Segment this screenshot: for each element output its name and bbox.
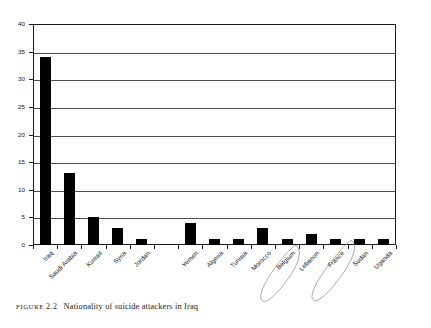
y-axis: 40 35 30 25 20 15 10 5 0 bbox=[0, 0, 33, 280]
x-tick-label: Jordan bbox=[133, 250, 152, 269]
bar bbox=[64, 173, 75, 245]
bar bbox=[88, 217, 99, 245]
y-tick-label: 30 bbox=[18, 76, 25, 82]
x-tick-label: Yemen bbox=[181, 250, 200, 269]
bars-layer bbox=[33, 24, 396, 245]
x-tick-label: Lebanon bbox=[298, 250, 320, 272]
x-tick-label: Tunisia bbox=[229, 250, 248, 269]
x-tick-label: Syria bbox=[112, 250, 127, 265]
y-tick-label: 5 bbox=[21, 214, 25, 220]
y-tick-label: 25 bbox=[18, 104, 25, 110]
x-tick-label: Iraq bbox=[42, 250, 54, 262]
y-tick-label: 40 bbox=[18, 21, 25, 27]
x-axis-labels: IraqSaudi ArabiaKuwaitSyriaJordanYemenAl… bbox=[0, 246, 431, 304]
x-tick-label: Kuwait bbox=[85, 250, 103, 268]
caption-text: Nationality of suicide attackers in Iraq bbox=[64, 302, 199, 311]
bar bbox=[185, 223, 196, 245]
bar bbox=[257, 228, 268, 245]
caption-figure-word: FIGURE bbox=[16, 303, 44, 310]
figure-caption: FIGURE 2.2 Nationality of suicide attack… bbox=[16, 302, 198, 311]
caption-figure-number: 2.2 bbox=[46, 302, 57, 311]
x-tick-label: Algeria bbox=[205, 250, 224, 269]
y-tick-label: 20 bbox=[18, 131, 25, 137]
x-tick-label: Uganda bbox=[373, 250, 394, 271]
y-tick-label: 15 bbox=[18, 159, 25, 165]
figure-container: 40 35 30 25 20 15 10 5 0 IraqSaudi Arabi… bbox=[0, 0, 431, 328]
bar bbox=[112, 228, 123, 245]
y-tick-label: 35 bbox=[18, 48, 25, 54]
y-tick-label: 10 bbox=[18, 187, 25, 193]
bar bbox=[40, 57, 51, 245]
bar bbox=[306, 234, 317, 245]
x-tick-label: France bbox=[326, 250, 345, 269]
x-tick-label: Belgium bbox=[276, 250, 297, 271]
x-tick-label: Sudan bbox=[351, 250, 369, 268]
x-tick-label: Morocco bbox=[250, 250, 272, 272]
